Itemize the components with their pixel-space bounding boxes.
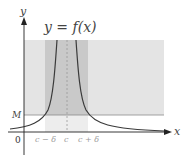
infinite-limit-diagram: y x 0 M y = f(x) c − δ c c + δ <box>0 0 187 159</box>
y-axis-label: y <box>19 5 27 18</box>
x-axis-arrow-icon <box>164 129 172 135</box>
origin-label: 0 <box>15 135 21 145</box>
x-axis-label: x <box>174 125 181 138</box>
tick-c-plus-delta: c + δ <box>78 135 99 144</box>
delta-band <box>45 40 88 115</box>
y-axis-arrow-icon <box>21 17 27 25</box>
delta-band-lower <box>45 115 88 132</box>
tick-c: c <box>64 135 69 144</box>
tick-c-minus-delta: c − δ <box>35 135 56 144</box>
m-label: M <box>11 110 22 120</box>
function-label: y = f(x) <box>43 19 97 35</box>
